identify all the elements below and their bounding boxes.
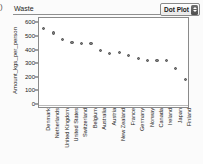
data-point[interactable] [137,57,140,60]
page-title: Waste [14,4,34,13]
data-point[interactable] [61,38,64,41]
data-point[interactable] [146,59,149,62]
x-category-label: New Zealand [120,108,126,141]
x-category-label: Switzerland [82,108,88,137]
y-axis-ticks: 0100200300400500600 [22,17,38,108]
zero-reference-line [39,105,188,106]
data-point[interactable] [99,49,102,52]
plot-area[interactable] [38,17,189,108]
chevron-down-icon [193,10,197,12]
x-category-label: Germany [139,108,145,131]
y-tick-label: 200 [25,74,35,80]
data-point[interactable] [80,42,83,45]
data-point[interactable] [127,54,130,57]
y-axis-title-text: Amount_kgs_per_person [13,26,20,93]
x-category-label: Australia [101,108,107,130]
data-point[interactable] [165,59,168,62]
y-tick-label: 100 [25,87,35,93]
y-tick-label: 500 [25,33,35,39]
x-category-label: Belgium [92,108,98,128]
y-tick-label: 300 [25,60,35,66]
x-category-label: Netherlands [54,108,60,138]
up-down-stepper-icon[interactable] [191,5,198,15]
data-point[interactable] [70,41,73,44]
x-category-label: Japan [177,108,183,123]
x-category-label: United States [73,108,79,142]
x-category-label: Norway [149,108,155,127]
panel-header: ) Waste Dot Plot [0,0,203,18]
data-point[interactable] [52,31,55,34]
y-tick-label: 400 [25,47,35,53]
data-point[interactable] [42,27,45,30]
data-point[interactable] [108,52,111,55]
chevron-up-icon [193,7,197,9]
plot-type-dropdown[interactable]: Dot Plot [160,3,200,16]
data-point[interactable] [118,51,121,54]
plot-type-label: Dot Plot [164,6,189,14]
x-category-label: Denmark [45,108,51,131]
data-point[interactable] [89,42,92,45]
corner-glyph: ) [0,2,2,12]
dot-plot-panel: ) Waste Dot Plot Amount_kgs_per_person 0… [0,0,203,164]
y-axis-title: Amount_kgs_per_person [11,14,21,106]
x-category-label: United Kingdom [64,108,70,148]
x-category-label: France [130,108,136,125]
x-category-label: Canada [158,108,164,128]
x-category-label: Finland [186,108,192,126]
x-axis-category-labels: DenmarkNetherlandsUnited KingdomUnited S… [38,108,189,162]
data-point[interactable] [174,67,177,70]
plot-wrapper: 0100200300400500600 [22,17,189,108]
y-tick-label: 600 [25,19,35,25]
data-point[interactable] [184,78,187,81]
x-category-label: Austria [111,108,117,125]
data-point[interactable] [155,59,158,62]
x-category-label: Ireland [167,108,173,125]
